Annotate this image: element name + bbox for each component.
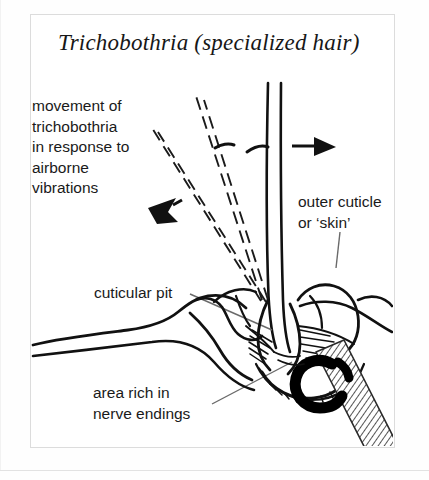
label-outer-cuticle: outer cuticle or ‘skin’: [298, 192, 382, 233]
label-movement-of-trichobothria: movement of trichobothria in response to…: [32, 96, 129, 199]
label-area-rich-in-nerve-endings: area rich in nerve endings: [93, 383, 190, 424]
page-title: Trichobothria (specialized hair): [58, 30, 388, 56]
figure-page: Trichobothria (specialized hair): [0, 0, 429, 480]
scan-edge-bottom: [0, 470, 429, 471]
scan-edge-left: [0, 0, 1, 470]
label-cuticular-pit: cuticular pit: [94, 283, 172, 304]
